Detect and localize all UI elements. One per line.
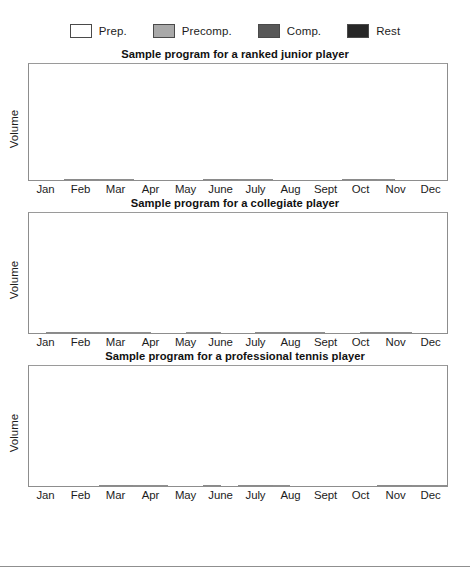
bar-aug-second-half	[290, 332, 307, 333]
x-tick-sept: Sept	[308, 336, 343, 348]
bar-nov-first-half	[377, 332, 394, 333]
bar-mar-second-half	[116, 332, 133, 333]
x-tick-july: July	[238, 336, 273, 348]
x-tick-dec: Dec	[413, 336, 448, 348]
chart-title: Sample program for a collegiate player	[0, 195, 470, 212]
y-axis-label: Volume	[8, 414, 20, 452]
chart-title: Sample program for a ranked junior playe…	[0, 46, 470, 63]
x-tick-june: June	[203, 336, 238, 348]
month-group-jan	[29, 213, 64, 333]
bar-apr-first-half	[133, 332, 150, 333]
bar-aug-first-half	[273, 332, 290, 333]
month-group-mar	[99, 366, 134, 486]
bar-feb-second-half	[81, 179, 98, 180]
x-tick-dec: Dec	[413, 489, 448, 501]
x-tick-june: June	[203, 183, 238, 195]
x-tick-july: July	[238, 183, 273, 195]
x-tick-jan: Jan	[28, 489, 63, 501]
month-group-may	[168, 64, 203, 180]
x-tick-feb: Feb	[63, 489, 98, 501]
bar-mar-first-half	[99, 332, 116, 333]
legend-swatch-comp-icon	[258, 24, 280, 38]
month-group-apr	[133, 366, 168, 486]
footer-caption	[0, 569, 470, 583]
bar-feb-first-half	[64, 332, 81, 333]
month-group-apr	[133, 64, 168, 180]
legend-item-prep: Prep.	[70, 24, 127, 38]
month-group-sept	[308, 366, 343, 486]
chart-ranked-junior-player: Sample program for a ranked junior playe…	[0, 46, 470, 195]
x-tick-apr: Apr	[133, 183, 168, 195]
x-tick-oct: Oct	[343, 489, 378, 501]
x-tick-aug: Aug	[273, 489, 308, 501]
month-group-sept	[308, 64, 343, 180]
month-group-feb	[64, 213, 99, 333]
legend-label-precomp: Precomp.	[182, 25, 232, 37]
y-axis-label-wrap: Volume	[0, 63, 28, 195]
x-tick-jan: Jan	[28, 336, 63, 348]
legend-item-rest: Rest	[347, 24, 400, 38]
bar-mar-first-half	[99, 485, 116, 486]
x-axis-ticks: JanFebMarAprMayJuneJulyAugSeptOctNovDec	[28, 489, 448, 501]
x-tick-july: July	[238, 489, 273, 501]
footer-divider	[0, 566, 470, 567]
month-group-july	[238, 64, 273, 180]
bar-mar-second-half	[116, 485, 133, 486]
plot-area	[28, 212, 448, 334]
bar-dec-first-half	[412, 485, 429, 486]
legend-label-comp: Comp.	[287, 25, 321, 37]
x-tick-mar: Mar	[98, 336, 133, 348]
chart-collegiate-player: Sample program for a collegiate player V…	[0, 195, 470, 348]
x-tick-feb: Feb	[63, 336, 98, 348]
month-group-jan	[29, 366, 64, 486]
legend-swatch-rest-icon	[347, 24, 369, 38]
legend-swatch-prep-icon	[70, 24, 92, 38]
x-tick-sept: Sept	[308, 183, 343, 195]
month-group-dec	[412, 213, 447, 333]
month-group-aug	[273, 366, 308, 486]
legend-item-comp: Comp.	[258, 24, 321, 38]
x-tick-may: May	[168, 183, 203, 195]
x-tick-may: May	[168, 336, 203, 348]
chart-title: Sample program for a professional tennis…	[0, 348, 470, 365]
month-group-may	[168, 213, 203, 333]
month-group-jan	[29, 64, 64, 180]
plot-area	[28, 63, 448, 181]
bar-june-first-half	[203, 485, 220, 486]
x-tick-mar: Mar	[98, 489, 133, 501]
x-tick-nov: Nov	[378, 489, 413, 501]
month-group-june	[203, 366, 238, 486]
x-tick-june: June	[203, 489, 238, 501]
bar-dec-second-half	[430, 485, 447, 486]
month-group-nov	[377, 213, 412, 333]
bar-series	[29, 366, 447, 486]
bar-july-second-half	[255, 332, 272, 333]
bar-sept-first-half	[308, 332, 325, 333]
month-group-may	[168, 366, 203, 486]
month-group-dec	[412, 64, 447, 180]
month-group-nov	[377, 366, 412, 486]
x-tick-feb: Feb	[63, 183, 98, 195]
month-group-oct	[342, 213, 377, 333]
month-group-aug	[273, 64, 308, 180]
bar-series	[29, 64, 447, 180]
bar-jan-second-half	[46, 332, 63, 333]
month-group-apr	[133, 213, 168, 333]
x-axis-ticks: JanFebMarAprMayJuneJulyAugSeptOctNovDec	[28, 336, 448, 348]
month-group-june	[203, 213, 238, 333]
bar-series	[29, 213, 447, 333]
bar-aug-first-half	[273, 485, 290, 486]
x-tick-aug: Aug	[273, 183, 308, 195]
chart-legend: Prep. Precomp. Comp. Rest	[0, 0, 470, 46]
bar-mar-second-half	[116, 179, 133, 180]
bar-nov-first-half	[377, 179, 394, 180]
x-tick-aug: Aug	[273, 336, 308, 348]
bar-july-first-half	[238, 485, 255, 486]
bar-june-second-half	[221, 179, 238, 180]
bar-nov-second-half	[395, 485, 412, 486]
bar-apr-second-half	[151, 485, 168, 486]
x-tick-sept: Sept	[308, 489, 343, 501]
month-group-oct	[342, 64, 377, 180]
bar-feb-first-half	[64, 179, 81, 180]
bar-mar-first-half	[99, 179, 116, 180]
